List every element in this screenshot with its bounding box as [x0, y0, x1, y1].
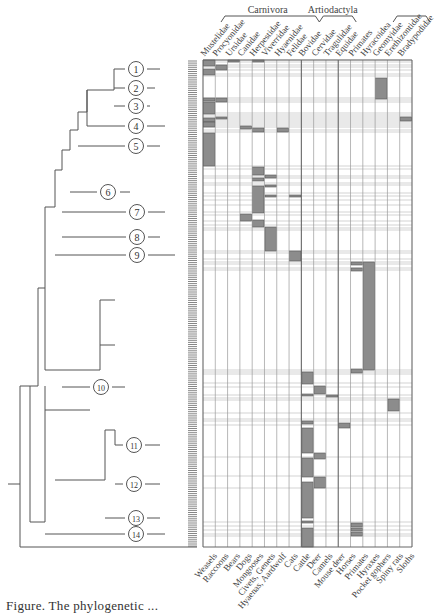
- clade-label-5: 5: [129, 139, 144, 154]
- clade-label-10: 10: [94, 380, 109, 395]
- matrix-cell: [302, 521, 313, 523]
- matrix-cell: [302, 482, 313, 518]
- matrix-cell: [277, 128, 288, 132]
- svg-text:7: 7: [135, 207, 140, 218]
- svg-text:8: 8: [135, 232, 140, 243]
- clade-label-8: 8: [130, 230, 145, 245]
- clade-label-6: 6: [101, 185, 116, 200]
- character-matrix: [203, 60, 412, 547]
- matrix-cell: [240, 214, 251, 221]
- matrix-cell: [253, 220, 264, 227]
- clade-label-11: 11: [127, 438, 142, 453]
- svg-text:3: 3: [134, 101, 139, 112]
- matrix-cell: [265, 185, 276, 187]
- matrix-cell: [290, 251, 301, 261]
- clade-label-14: 14: [129, 527, 144, 542]
- svg-text:4: 4: [134, 121, 139, 132]
- matrix-cell: [290, 195, 301, 197]
- matrix-cell: [204, 60, 215, 66]
- clade-label-13: 13: [129, 511, 144, 526]
- matrix-cell: [204, 133, 215, 166]
- clade-label-9: 9: [130, 248, 145, 263]
- clade-label-12: 12: [127, 477, 142, 492]
- svg-text:14: 14: [132, 531, 140, 540]
- matrix-cell: [265, 227, 276, 251]
- matrix-cell: [302, 372, 313, 384]
- figure-caption: Figure. The phylogenetic ...: [6, 598, 158, 614]
- matrix-cell: [240, 126, 251, 129]
- matrix-cell: [204, 102, 215, 114]
- matrix-cell: [216, 98, 227, 102]
- matrix-cell: [351, 523, 362, 527]
- matrix-cell: [314, 386, 325, 394]
- matrix-cell: [302, 394, 313, 396]
- matrix-cell: [302, 528, 313, 547]
- matrix-cell: [253, 178, 264, 181]
- matrix-cell: [376, 78, 387, 99]
- svg-text:13: 13: [132, 515, 140, 524]
- group-label: Carnivora: [248, 4, 288, 15]
- matrix-cell: [351, 262, 362, 265]
- matrix-cell: [326, 395, 337, 397]
- svg-text:6: 6: [106, 187, 111, 198]
- matrix-cell: [302, 458, 313, 477]
- matrix-cell: [265, 175, 276, 178]
- matrix-cell: [351, 369, 362, 373]
- matrix-cell: [253, 167, 264, 175]
- matrix-cell: [204, 118, 215, 122]
- svg-text:2: 2: [134, 83, 139, 94]
- clade-label-2: 2: [129, 81, 144, 96]
- svg-text:10: 10: [97, 384, 105, 393]
- group-label: Artiodactyla: [308, 4, 358, 15]
- matrix-cell: [216, 65, 227, 70]
- matrix-cell: [351, 268, 362, 271]
- matrix-cell: [265, 195, 276, 197]
- matrix-cell: [302, 421, 313, 424]
- matrix-cell: [363, 262, 374, 370]
- matrix-cell: [253, 186, 264, 213]
- matrix-cell: [204, 69, 215, 75]
- matrix-cell: [314, 453, 325, 459]
- matrix-cell: [351, 528, 362, 531]
- svg-text:5: 5: [134, 141, 139, 152]
- matrix-cell: [314, 477, 325, 488]
- matrix-cell: [253, 128, 264, 132]
- matrix-cell: [339, 423, 350, 428]
- matrix-cell: [351, 532, 362, 536]
- matrix-cell: [400, 117, 411, 121]
- svg-text:12: 12: [130, 481, 138, 490]
- clade-label-7: 7: [130, 205, 145, 220]
- svg-text:11: 11: [130, 442, 138, 451]
- matrix-cell: [204, 122, 215, 127]
- matrix-cell: [388, 399, 399, 411]
- clade-label-3: 3: [129, 99, 144, 114]
- svg-text:9: 9: [135, 250, 140, 261]
- svg-text:1: 1: [134, 64, 139, 75]
- matrix-cell: [216, 117, 227, 119]
- matrix-cell: [302, 428, 313, 453]
- clade-label-1: 1: [129, 62, 144, 77]
- matrix-cell: [204, 98, 215, 101]
- clade-label-4: 4: [129, 119, 144, 134]
